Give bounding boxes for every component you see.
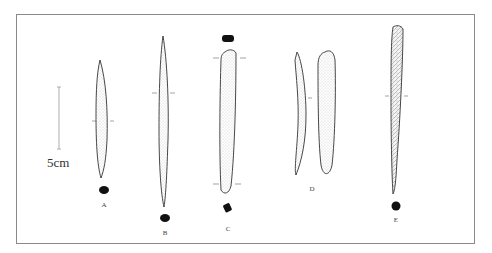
artifact-a-drawing	[92, 60, 114, 194]
artifact-c-cross-section-top	[222, 35, 234, 42]
artifact-b-drawing	[152, 36, 175, 222]
artifact-label-d: D	[309, 185, 314, 193]
artifact-label-a: A	[101, 201, 106, 209]
artifact-e-cross-section	[392, 202, 401, 211]
scale-bar	[57, 87, 61, 149]
artifact-e-drawing	[385, 26, 408, 211]
artifact-label-e: E	[394, 216, 398, 224]
scale-bar-label: 5cm	[47, 155, 69, 171]
artifact-d-drawing	[295, 51, 335, 175]
artifact-label-b: B	[163, 229, 168, 237]
artifact-c-cross-section-bottom	[223, 203, 233, 213]
artifact-a-cross-section	[99, 186, 109, 194]
artifact-label-c: C	[226, 225, 231, 233]
artifact-drawings	[0, 0, 492, 253]
artifact-b-cross-section	[160, 214, 170, 222]
artifact-c-drawing	[213, 35, 246, 213]
